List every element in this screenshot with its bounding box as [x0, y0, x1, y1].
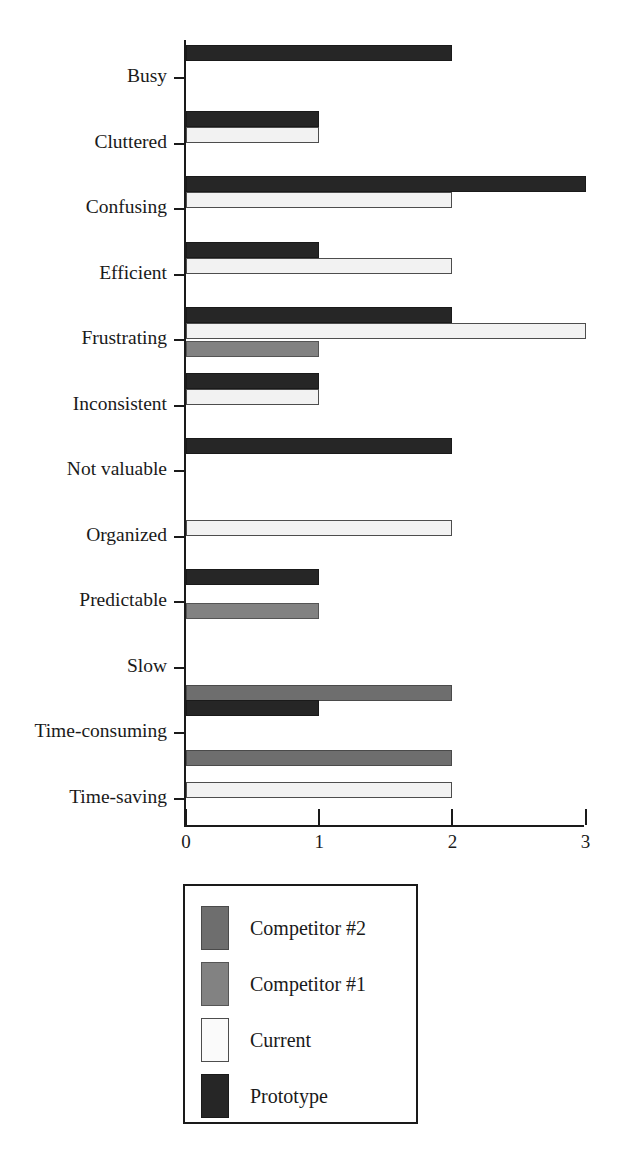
- y-axis-category-label: Cluttered: [94, 131, 167, 153]
- legend: Competitor #2Competitor #1CurrentPrototy…: [183, 884, 418, 1124]
- y-axis-tick: [174, 536, 185, 538]
- x-axis-tick-label: 2: [432, 831, 472, 853]
- legend-item[interactable]: Competitor #1: [201, 961, 366, 1007]
- y-axis-category-label: Time-consuming: [34, 720, 167, 742]
- bar: [186, 520, 452, 536]
- bar: [186, 685, 452, 701]
- bar: [186, 603, 319, 619]
- y-axis-category-label: Efficient: [99, 262, 167, 284]
- bar: [186, 111, 319, 127]
- legend-item-label: Prototype: [250, 1084, 328, 1108]
- y-axis-category-label: Confusing: [86, 196, 167, 218]
- bar: [186, 127, 319, 143]
- y-axis-category-label: Predictable: [79, 589, 167, 611]
- bar: [186, 192, 452, 208]
- y-axis-tick: [174, 274, 185, 276]
- legend-item[interactable]: Current: [201, 1017, 311, 1063]
- legend-swatch-icon: [201, 1074, 229, 1118]
- x-axis-tick: [451, 809, 453, 825]
- y-axis-category-label: Organized: [86, 524, 167, 546]
- bar: [186, 373, 319, 389]
- legend-item-label: Current: [250, 1028, 311, 1052]
- plot-area: BusyClutteredConfusingEfficientFrustrati…: [0, 0, 621, 870]
- legend-swatch-icon: [201, 962, 229, 1006]
- y-axis-tick: [174, 470, 185, 472]
- bar: [186, 750, 452, 766]
- bar: [186, 389, 319, 405]
- y-axis-tick: [174, 77, 185, 79]
- bar: [186, 258, 452, 274]
- y-axis-category-label: Inconsistent: [73, 393, 167, 415]
- bar: [186, 307, 452, 323]
- y-axis-category-label: Time-saving: [69, 786, 167, 808]
- legend-item[interactable]: Competitor #2: [201, 905, 366, 951]
- y-axis-category-label: Busy: [127, 65, 167, 87]
- y-axis-category-label: Not valuable: [67, 458, 167, 480]
- x-axis-tick-label: 3: [566, 831, 606, 853]
- y-axis-tick: [174, 667, 185, 669]
- x-axis-tick-label: 1: [299, 831, 339, 853]
- y-axis-tick: [174, 143, 185, 145]
- x-axis-tick: [585, 809, 587, 825]
- bar: [186, 569, 319, 585]
- x-axis-tick: [318, 809, 320, 825]
- y-axis-category-label: Slow: [127, 655, 167, 677]
- legend-swatch-icon: [201, 1018, 229, 1062]
- bar: [186, 176, 586, 192]
- y-axis-tick: [174, 405, 185, 407]
- legend-item-label: Competitor #1: [250, 972, 366, 996]
- bar: [186, 700, 319, 716]
- bar: [186, 782, 452, 798]
- x-axis-tick-label: 0: [166, 831, 206, 853]
- bar: [186, 242, 319, 258]
- y-axis-tick: [174, 601, 185, 603]
- bar-chart: BusyClutteredConfusingEfficientFrustrati…: [0, 0, 621, 1173]
- x-axis-tick: [185, 809, 187, 825]
- y-axis-tick: [174, 798, 185, 800]
- bar: [186, 438, 452, 454]
- y-axis-category-label: Frustrating: [81, 327, 167, 349]
- y-axis-tick: [174, 732, 185, 734]
- bar: [186, 323, 586, 339]
- y-axis-tick: [174, 339, 185, 341]
- bar: [186, 45, 452, 61]
- x-axis-line: [184, 825, 584, 827]
- legend-item-label: Competitor #2: [250, 916, 366, 940]
- legend-item[interactable]: Prototype: [201, 1073, 328, 1119]
- legend-swatch-icon: [201, 906, 229, 950]
- y-axis-tick: [174, 208, 185, 210]
- bar: [186, 341, 319, 357]
